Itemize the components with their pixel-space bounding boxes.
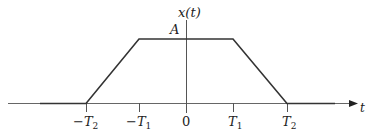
amplitude-label: A (169, 22, 179, 37)
trapezoid-signal-diagram: x(t) A t −T2 −T1 0 T1 T2 (0, 0, 367, 136)
tick-label-zero: 0 (182, 114, 190, 129)
signal-trapezoid (40, 39, 335, 104)
y-axis-label: x(t) (178, 5, 201, 20)
tick-label-T2: T2 (282, 114, 296, 131)
tick-label-neg-T2: −T2 (73, 114, 98, 131)
t-axis-arrowhead-icon (349, 100, 358, 107)
tick-label-neg-T1: −T1 (126, 114, 151, 131)
t-axis-label: t (360, 101, 365, 115)
tick-label-T1: T1 (228, 114, 242, 131)
